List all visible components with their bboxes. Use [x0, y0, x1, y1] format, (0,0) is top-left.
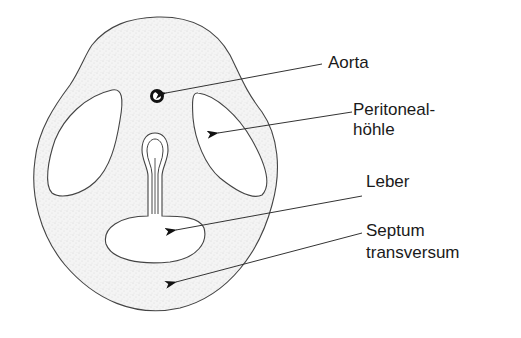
- label-septum-line2: transversum: [366, 243, 460, 262]
- embryo-cross-section-diagram: [0, 0, 521, 338]
- label-septum-line1: Septum: [366, 221, 425, 240]
- label-leber: Leber: [366, 172, 409, 191]
- label-peritoneal-line2: höhle: [353, 120, 395, 139]
- label-peritoneal-line1: Peritoneal-: [353, 100, 435, 119]
- aorta-ring: [152, 91, 163, 102]
- label-aorta: Aorta: [328, 53, 369, 72]
